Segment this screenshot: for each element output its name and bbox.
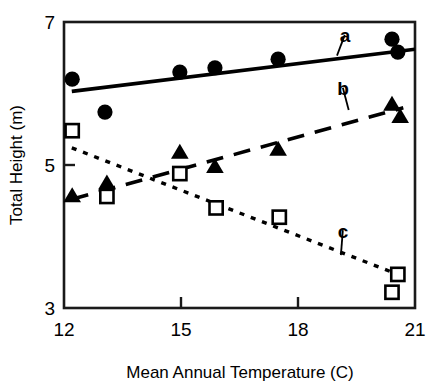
marker-a	[207, 60, 222, 75]
marker-c	[100, 190, 113, 203]
chart-container: 12151821 357 a b c Mean Annual Temperatu…	[0, 0, 436, 390]
x-tick-label: 21	[404, 319, 425, 340]
series-c-label: c	[338, 221, 349, 242]
marker-a	[97, 104, 112, 119]
y-axis-title: Total Height (m)	[7, 105, 26, 225]
series-b-label: b	[337, 78, 349, 99]
marker-c	[66, 124, 79, 137]
y-tick-label: 7	[44, 12, 55, 33]
marker-c	[391, 268, 404, 281]
y-axis-tick-labels: 357	[44, 12, 55, 319]
marker-a	[390, 44, 405, 59]
x-axis-title: Mean Annual Temperature (C)	[126, 363, 353, 382]
y-tick-label: 5	[44, 155, 55, 176]
total-height-vs-temperature-chart: 12151821 357 a b c Mean Annual Temperatu…	[0, 0, 436, 390]
marker-c	[173, 167, 186, 180]
marker-a	[172, 64, 187, 79]
x-tick-label: 12	[53, 319, 74, 340]
marker-c	[385, 286, 398, 299]
series-a-label: a	[340, 25, 351, 46]
marker-c	[273, 211, 286, 224]
x-tick-label: 15	[170, 319, 191, 340]
x-tick-label: 18	[287, 319, 308, 340]
marker-a	[65, 72, 80, 87]
marker-a	[271, 52, 286, 67]
marker-c	[210, 201, 223, 214]
x-axis-tick-labels: 12151821	[53, 319, 425, 340]
y-tick-label: 3	[44, 298, 55, 319]
